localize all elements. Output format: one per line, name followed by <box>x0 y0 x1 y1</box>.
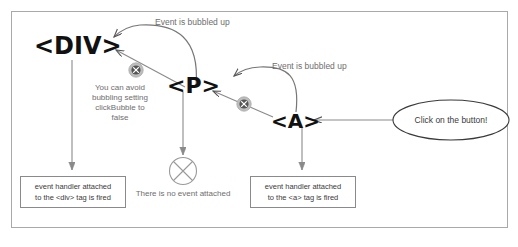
block-icon-p-to-div <box>129 63 143 77</box>
note-avoid-bubbling-line2: bubbling setting <box>92 93 148 102</box>
node-label-a: <A> <box>271 109 320 133</box>
a-handler-box: event handler attached to the <a> tag is… <box>251 177 356 208</box>
node-label-div: <DIV> <box>34 32 122 60</box>
event-bubbling-diagram: <DIV> <P> <A> Event is bubbled up Event … <box>0 0 518 247</box>
a-handler-box-line2: to the <a> tag is fired <box>268 193 338 202</box>
note-avoid-bubbling-line4: false <box>112 113 129 122</box>
block-icon-a-to-p <box>237 97 251 111</box>
node-label-p: <P> <box>167 73 220 98</box>
note-avoid-bubbling-line3: clickBubble to <box>95 103 145 112</box>
label-event-bubbled-up-1: Event is bubbled up <box>155 17 230 27</box>
no-event-circle-icon <box>170 158 197 185</box>
div-handler-box-line1: event handler attached <box>35 182 111 191</box>
label-event-bubbled-up-2: Event is bubbled up <box>272 61 347 71</box>
click-callout-text: Click on the button! <box>415 115 488 125</box>
a-handler-box-line1: event handler attached <box>265 182 341 191</box>
note-avoid-bubbling-line1: You can avoid <box>95 83 145 92</box>
diagram-canvas: <DIV> <P> <A> Event is bubbled up Event … <box>0 0 518 247</box>
click-callout-bubble: Click on the button! <box>393 100 509 140</box>
div-handler-box-line2: to the <div> tag is fired <box>35 193 111 202</box>
div-handler-box: event handler attached to the <div> tag … <box>21 177 126 208</box>
label-no-event-attached: There is no event attached <box>136 189 231 198</box>
